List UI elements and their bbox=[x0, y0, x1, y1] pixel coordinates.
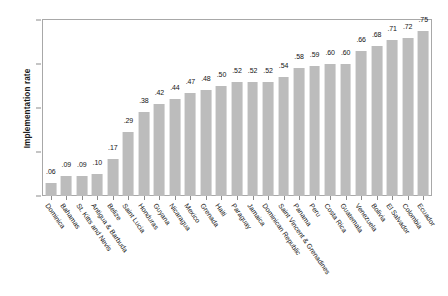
x-tick-mark bbox=[190, 196, 191, 200]
bar-value-label: .52 bbox=[232, 67, 241, 74]
x-tick-mark bbox=[159, 196, 160, 200]
x-tick-mark bbox=[82, 196, 83, 200]
bar-value-label: .10 bbox=[93, 159, 102, 166]
bar bbox=[294, 68, 305, 196]
y-tick-mark bbox=[36, 64, 41, 65]
x-tick-mark bbox=[144, 196, 145, 200]
bar-value-label: .72 bbox=[403, 23, 412, 30]
bar-slot: .75 bbox=[415, 20, 431, 196]
bar-slot: .48 bbox=[198, 20, 214, 196]
bar bbox=[356, 51, 367, 196]
bar bbox=[201, 90, 212, 196]
x-tick-mark bbox=[284, 196, 285, 200]
bar bbox=[418, 31, 429, 196]
bar bbox=[247, 82, 258, 196]
bar bbox=[154, 104, 165, 196]
bar-slot: .29 bbox=[121, 20, 137, 196]
bar-slot: .42 bbox=[152, 20, 168, 196]
bar-slot: .66 bbox=[353, 20, 369, 196]
x-category-label: Belize bbox=[106, 202, 122, 221]
bar bbox=[45, 183, 56, 196]
x-tick-mark bbox=[66, 196, 67, 200]
y-axis-title: Implementation rate bbox=[23, 24, 32, 194]
x-tick-mark bbox=[51, 196, 52, 200]
bar-slot: .06 bbox=[43, 20, 59, 196]
bar bbox=[185, 93, 196, 196]
bars-container: .06.09.09.10.17.29.38.42.44.47.48.50.52.… bbox=[43, 20, 431, 196]
bar-value-label: .06 bbox=[46, 168, 55, 175]
bar bbox=[92, 174, 103, 196]
x-category-label: Peru bbox=[308, 202, 322, 218]
bar-slot: .38 bbox=[136, 20, 152, 196]
bar-chart: Implementation rate .0.2.4.6.8 .06.09.09… bbox=[0, 0, 448, 296]
bar-slot: .59 bbox=[307, 20, 323, 196]
bar-slot: .72 bbox=[400, 20, 416, 196]
bar-value-label: .09 bbox=[77, 161, 86, 168]
x-tick-mark bbox=[206, 196, 207, 200]
y-tick-mark bbox=[36, 152, 41, 153]
y-tick-mark bbox=[36, 196, 41, 197]
x-tick-mark bbox=[315, 196, 316, 200]
x-category-label: Haiti bbox=[215, 202, 229, 217]
bar-value-label: .58 bbox=[294, 53, 303, 60]
bar-value-label: .50 bbox=[217, 71, 226, 78]
bar-slot: .60 bbox=[338, 20, 354, 196]
bar-value-label: .59 bbox=[310, 51, 319, 58]
bar-value-label: .09 bbox=[62, 161, 71, 168]
x-tick-mark bbox=[330, 196, 331, 200]
bar-slot: .10 bbox=[90, 20, 106, 196]
x-tick-mark bbox=[408, 196, 409, 200]
bar-value-label: .66 bbox=[356, 36, 365, 43]
bar-value-label: .38 bbox=[139, 97, 148, 104]
bar bbox=[387, 40, 398, 196]
bar bbox=[309, 66, 320, 196]
x-tick-mark bbox=[237, 196, 238, 200]
bar-slot: .17 bbox=[105, 20, 121, 196]
bar bbox=[232, 82, 243, 196]
bar-value-label: .42 bbox=[155, 89, 164, 96]
bar bbox=[340, 64, 351, 196]
bar-slot: .44 bbox=[167, 20, 183, 196]
bar-value-label: .68 bbox=[372, 31, 381, 38]
bar bbox=[169, 99, 180, 196]
bar bbox=[278, 77, 289, 196]
bar-value-label: .47 bbox=[186, 78, 195, 85]
bar-value-label: .60 bbox=[325, 49, 334, 56]
x-tick-mark bbox=[377, 196, 378, 200]
bar-slot: .52 bbox=[229, 20, 245, 196]
bar bbox=[123, 132, 134, 196]
bar-value-label: .48 bbox=[201, 75, 210, 82]
x-tick-mark bbox=[221, 196, 222, 200]
bar bbox=[107, 159, 118, 196]
x-tick-mark bbox=[361, 196, 362, 200]
bar-value-label: .17 bbox=[108, 144, 117, 151]
bar bbox=[76, 176, 87, 196]
bar-slot: .09 bbox=[59, 20, 75, 196]
x-tick-mark bbox=[423, 196, 424, 200]
bar-slot: .09 bbox=[74, 20, 90, 196]
bar bbox=[402, 38, 413, 196]
bar-slot: .52 bbox=[245, 20, 261, 196]
x-tick-mark bbox=[128, 196, 129, 200]
bar-slot: .60 bbox=[322, 20, 338, 196]
x-tick-mark bbox=[392, 196, 393, 200]
bar bbox=[216, 86, 227, 196]
x-tick-mark bbox=[253, 196, 254, 200]
x-tick-mark bbox=[346, 196, 347, 200]
bar bbox=[263, 82, 274, 196]
bar bbox=[138, 112, 149, 196]
bar-value-label: .71 bbox=[387, 25, 396, 32]
bar-slot: .50 bbox=[214, 20, 230, 196]
bar bbox=[371, 46, 382, 196]
x-tick-mark bbox=[113, 196, 114, 200]
bar-slot: .52 bbox=[260, 20, 276, 196]
bar-slot: .54 bbox=[276, 20, 292, 196]
bar-slot: .47 bbox=[183, 20, 199, 196]
y-tick-mark bbox=[36, 108, 41, 109]
bar-value-label: .52 bbox=[248, 67, 257, 74]
bar-value-label: .44 bbox=[170, 84, 179, 91]
y-tick-mark bbox=[36, 20, 41, 21]
x-tick-mark bbox=[268, 196, 269, 200]
bar-slot: .68 bbox=[369, 20, 385, 196]
x-tick-mark bbox=[175, 196, 176, 200]
